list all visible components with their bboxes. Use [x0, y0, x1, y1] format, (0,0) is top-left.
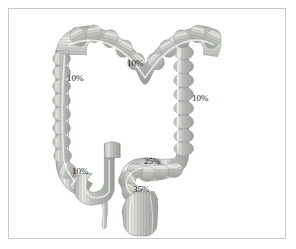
- label-ascending-colon: 10%: [192, 94, 209, 103]
- label-rectum: 35%: [133, 185, 150, 194]
- ileum-segment: [104, 142, 120, 158]
- label-sigmoid-colon: 25%: [144, 157, 161, 166]
- colon-diagram: [9, 9, 285, 238]
- cecum-segment: [74, 142, 120, 229]
- rectum-segment: [122, 191, 158, 236]
- label-descending-colon: 10%: [67, 74, 84, 83]
- label-transverse-colon: 10%: [127, 59, 144, 68]
- figure-frame: 10% 10% 10% 10% 25% 35%: [8, 8, 286, 239]
- appendix-segment: [102, 202, 108, 229]
- label-cecum: 10%: [72, 167, 89, 176]
